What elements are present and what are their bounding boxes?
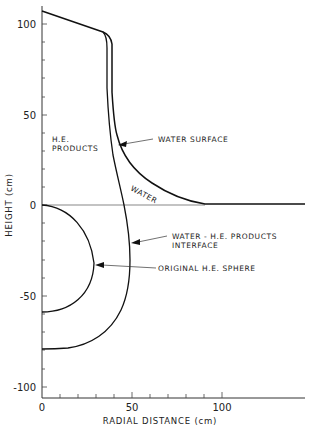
diagram-canvas: 100 50 0 -50 -100 0 50 100 RADIAL DISTAN… (0, 0, 321, 436)
y-tick-50: 50 (23, 110, 36, 121)
water-surface-leader (124, 139, 153, 144)
label-water: WATER (129, 184, 159, 206)
arrowhead-icon (95, 262, 104, 268)
arrowhead-icon (131, 239, 140, 245)
x-axis-label: RADIAL DISTANCE (cm) (103, 416, 217, 426)
label-interface-1: WATER - H.E. PRODUCTS (172, 232, 277, 241)
label-water-surface: WATER SURFACE (158, 135, 228, 144)
label-original-sphere: ORIGINAL H.E. SPHERE (158, 264, 256, 273)
y-tick-neg100: -100 (13, 382, 36, 393)
y-tick-100: 100 (17, 19, 36, 30)
axes (42, 6, 305, 398)
x-tick-0: 0 (39, 402, 45, 413)
y-axis-label: HEIGHT (cm) (4, 173, 14, 237)
x-ticks (60, 392, 222, 398)
x-tick-labels: 0 50 100 (39, 402, 232, 413)
y-tick-neg50: -50 (20, 291, 36, 302)
y-tick-0: 0 (30, 200, 36, 211)
original-sphere-curve (42, 205, 94, 312)
interface-curve (42, 32, 130, 349)
y-tick-labels: 100 50 0 -50 -100 (13, 19, 36, 393)
sphere-leader (102, 265, 156, 268)
label-he-products-1: H.E. (52, 135, 69, 144)
label-he-products-2: PRODUCTS (52, 144, 98, 153)
x-tick-100: 100 (212, 402, 231, 413)
water-surface-curve (42, 11, 305, 204)
interface-leader (138, 236, 167, 242)
x-tick-50: 50 (126, 402, 139, 413)
label-interface-2: INTERFACE (172, 241, 218, 250)
